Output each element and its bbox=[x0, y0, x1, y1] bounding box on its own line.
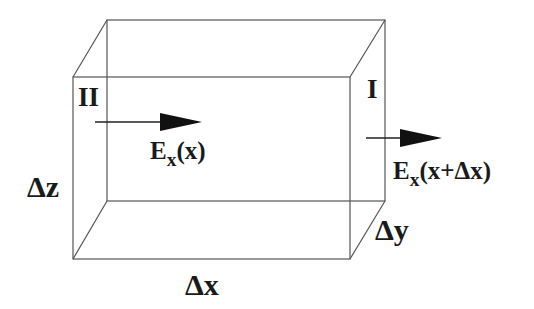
dimension-label-dy: Δy bbox=[375, 215, 409, 245]
field-symbol: E bbox=[150, 137, 167, 164]
field-argument: (x+Δx) bbox=[419, 157, 491, 184]
front-face bbox=[73, 77, 350, 259]
field-argument: (x) bbox=[176, 137, 205, 164]
volume-element-drawing bbox=[0, 0, 534, 309]
edge-top-right bbox=[350, 20, 385, 77]
field-label-out: Ex(x+Δx) bbox=[393, 158, 491, 189]
field-label-in: Ex(x) bbox=[150, 138, 206, 169]
arrow-field-in bbox=[95, 113, 202, 131]
edge-bottom-left bbox=[73, 201, 107, 259]
edge-top-left bbox=[73, 20, 107, 77]
dimension-label-dz: Δz bbox=[27, 172, 59, 202]
field-subscript: x bbox=[167, 149, 177, 170]
dimension-label-dx: Δx bbox=[185, 270, 219, 300]
field-subscript: x bbox=[410, 169, 420, 190]
back-face bbox=[107, 20, 385, 201]
face-label-I: I bbox=[367, 76, 378, 103]
face-label-II: II bbox=[78, 84, 99, 111]
field-symbol: E bbox=[393, 157, 410, 184]
arrow-field-out bbox=[366, 129, 442, 147]
